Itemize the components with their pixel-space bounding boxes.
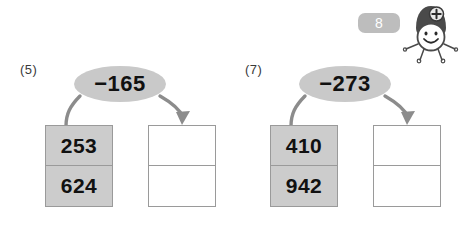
answer-box[interactable] xyxy=(148,125,216,207)
source-value-top: 410 xyxy=(271,126,337,166)
answer-field-top[interactable] xyxy=(149,126,215,166)
worksheet-page: 8 (5) xyxy=(0,0,474,234)
source-value-top: 253 xyxy=(46,126,112,166)
source-value-bottom: 624 xyxy=(46,166,112,206)
operator-text: −165 xyxy=(74,66,166,102)
answer-box[interactable] xyxy=(373,125,441,207)
source-number-box: 410 942 xyxy=(270,125,338,207)
source-value-bottom: 942 xyxy=(271,166,337,206)
problem-group-5: (5) −165 253 624 xyxy=(8,0,238,234)
operator-text: −273 xyxy=(299,66,391,102)
answer-field-bottom[interactable] xyxy=(374,166,440,206)
answer-field-bottom[interactable] xyxy=(149,166,215,206)
problem-group-7: (7) −273 410 942 xyxy=(233,0,463,234)
source-number-box: 253 624 xyxy=(45,125,113,207)
answer-field-top[interactable] xyxy=(374,126,440,166)
